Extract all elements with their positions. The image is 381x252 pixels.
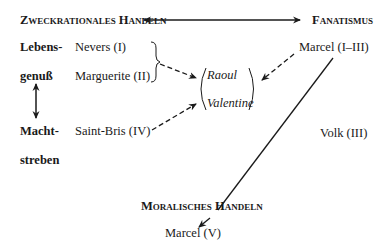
character-nevers: Nevers (I) bbox=[75, 40, 126, 54]
dashed-arrow-brace-to-raoul bbox=[160, 64, 196, 78]
character-raoul: Raoul bbox=[207, 68, 237, 82]
character-valentine: Valentine bbox=[207, 96, 254, 110]
label-moralisches-handeln: Moralisches Handeln bbox=[141, 199, 263, 213]
character-volk: Volk (III) bbox=[320, 126, 367, 140]
character-marcel-late: Marcel (V) bbox=[165, 226, 221, 240]
left-parenthesis bbox=[201, 68, 206, 110]
pole-zweckrationales-handeln: Zweckrationales Handeln bbox=[20, 13, 167, 27]
curly-brace bbox=[151, 42, 160, 82]
label-streben: streben bbox=[20, 153, 59, 167]
character-marguerite: Marguerite (II) bbox=[75, 69, 150, 83]
character-saint-bris: Saint-Bris (IV) bbox=[75, 124, 150, 138]
character-marcel-early: Marcel (I–III) bbox=[299, 40, 369, 54]
label-macht: Macht- bbox=[20, 124, 59, 138]
pole-fanatismus: Fanatismus bbox=[312, 13, 373, 27]
label-genuss: genuß bbox=[20, 69, 53, 83]
dashed-arrow-marcel-to-pair bbox=[262, 54, 294, 80]
dashed-arrow-saintbris-to-valentine bbox=[152, 104, 196, 130]
label-lebens: Lebens- bbox=[20, 40, 62, 54]
